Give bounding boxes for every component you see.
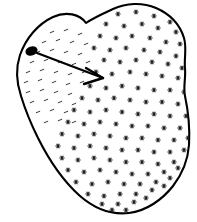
lesion-diagram-svg [0,0,197,222]
figure-canvas [0,0,197,222]
blob-outline [17,4,189,213]
